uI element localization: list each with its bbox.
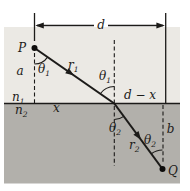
b-label: b: [167, 122, 175, 136]
point-P-dot: [32, 45, 38, 51]
a-label: a: [16, 64, 23, 78]
d-label: d: [97, 18, 105, 32]
point-P-label: P: [17, 41, 27, 55]
d-minus-x-label: d − x: [124, 88, 156, 102]
point-Q-label: Q: [168, 164, 178, 178]
refraction-diagram: d P θ1 a r1 θ1 n1 n2 x d − x θ2 r2 θ2 b …: [0, 0, 190, 191]
point-Q-dot: [160, 166, 166, 172]
x-label: x: [53, 101, 60, 115]
